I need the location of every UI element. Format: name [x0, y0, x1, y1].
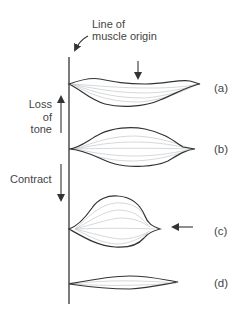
origin-label-line1: Line of — [92, 18, 157, 30]
state-label-d: (d) — [214, 277, 228, 289]
muscle-shape-c — [69, 196, 193, 247]
muscle-shape-d — [69, 276, 178, 289]
loss-of-tone-label: Loss of tone — [10, 98, 52, 136]
muscle-diagram — [0, 0, 244, 318]
contract-label: Contract — [10, 173, 52, 185]
state-label-c: (c) — [214, 225, 227, 237]
loss-of-tone-line3: tone — [10, 123, 52, 136]
muscle-shape-b — [69, 128, 195, 167]
muscle-shape-a — [69, 61, 200, 106]
loss-of-tone-line2: of — [10, 111, 52, 124]
origin-pointer-arrow-icon — [75, 36, 88, 50]
state-label-a: (a) — [214, 82, 228, 94]
origin-label-line2: muscle origin — [92, 30, 157, 42]
loss-of-tone-line1: Loss — [10, 98, 52, 111]
state-label-b: (b) — [214, 143, 228, 155]
origin-line-label: Line of muscle origin — [92, 18, 157, 42]
